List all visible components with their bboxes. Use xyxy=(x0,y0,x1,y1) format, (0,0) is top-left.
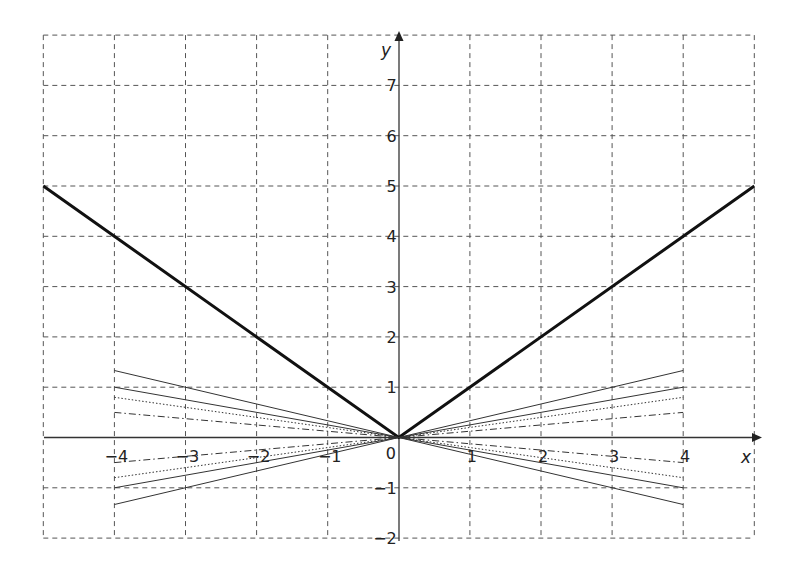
y-axis-arrow-icon xyxy=(395,31,404,41)
y-tick-label: 5 xyxy=(387,177,397,196)
axes: x y xyxy=(44,31,762,541)
x-axis-arrow-icon xyxy=(752,433,762,442)
chart-canvas: x y −4−3−2−101234−2−11234567 xyxy=(0,0,797,572)
y-tick-label: 7 xyxy=(387,76,397,95)
x-tick-label: −2 xyxy=(247,447,271,466)
x-tick-label: −4 xyxy=(105,447,129,466)
tick-labels: −4−3−2−101234−2−11234567 xyxy=(105,76,691,548)
x-tick-label: −3 xyxy=(176,447,200,466)
x-tick-label: 4 xyxy=(680,447,690,466)
y-tick-label: −1 xyxy=(373,479,397,498)
x-tick-label: 3 xyxy=(609,447,619,466)
y-tick-label: 6 xyxy=(387,127,397,146)
y-axis-label: y xyxy=(380,40,392,60)
y-tick-label: −2 xyxy=(373,529,397,548)
x-tick-label: −1 xyxy=(318,447,342,466)
y-tick-label: 2 xyxy=(387,328,397,347)
x-tick-label: 2 xyxy=(538,447,548,466)
x-tick-label: 1 xyxy=(467,447,477,466)
y-tick-label: 1 xyxy=(387,378,397,397)
x-axis-label: x xyxy=(740,447,752,467)
y-tick-label: 4 xyxy=(387,227,397,246)
y-tick-label: 3 xyxy=(387,278,397,297)
x-tick-label: 0 xyxy=(386,444,396,463)
